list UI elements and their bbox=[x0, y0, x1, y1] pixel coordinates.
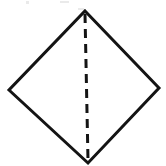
dashed-fold-line bbox=[85, 14, 88, 160]
figure-canvas: Diamond with vertical dashed fold line A… bbox=[0, 0, 166, 166]
diamond-diagram: Diamond with vertical dashed fold line A… bbox=[0, 0, 166, 166]
